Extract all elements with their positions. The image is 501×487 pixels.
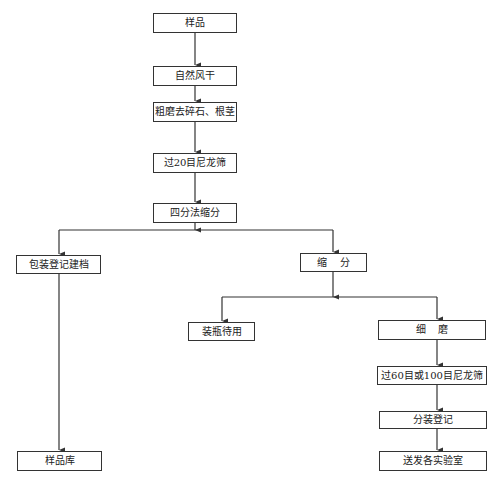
node-reduce: 缩 分	[300, 253, 367, 272]
node-sample: 样品	[153, 13, 237, 33]
node-fine-grind: 细 磨	[378, 320, 486, 340]
node-air-dry: 自然风干	[153, 66, 237, 86]
node-coarse-grind: 粗磨去碎石、根茎	[153, 102, 237, 122]
node-sample-library: 样品库	[17, 451, 102, 471]
node-quartering: 四分法缩分	[153, 203, 237, 223]
node-sieve-20: 过20目尼龙筛	[153, 153, 237, 173]
node-split-register: 分装登记	[379, 411, 487, 429]
node-bottle-store: 装瓶待用	[188, 322, 255, 341]
node-package-register: 包装登记建档	[16, 255, 101, 274]
node-sieve-60-100: 过60目或100目尼龙筛	[377, 366, 487, 385]
node-send-labs: 送发各实验室	[379, 451, 487, 471]
